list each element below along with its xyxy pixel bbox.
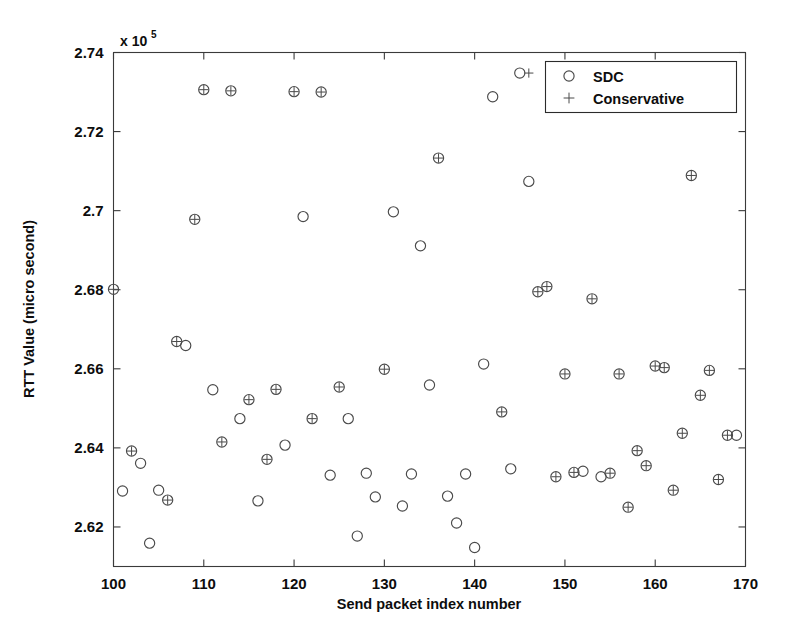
y-axis-exponent-base: x 10 (120, 33, 147, 49)
data-point-sdc (515, 68, 525, 78)
data-point-sdc (298, 211, 308, 221)
y-tick-label: 2.7 (83, 202, 104, 219)
data-point-sdc (208, 385, 218, 395)
data-point-sdc (524, 176, 534, 186)
data-point-sdc (442, 491, 452, 501)
data-point-sdc (406, 469, 416, 479)
data-point-sdc (470, 542, 480, 552)
x-tick-label: 160 (643, 575, 668, 592)
y-tick-label: 2.72 (74, 123, 103, 140)
series-sdc-points (108, 68, 741, 553)
legend-label-sdc: SDC (593, 69, 624, 85)
x-tick-label: 130 (372, 575, 397, 592)
x-axis-ticks: 100110120130140150160170 (101, 53, 758, 592)
data-point-sdc (415, 241, 425, 251)
y-tick-label: 2.64 (74, 439, 104, 456)
data-point-sdc (479, 359, 489, 369)
data-point-sdc (370, 492, 380, 502)
data-point-sdc (135, 458, 145, 468)
data-point-sdc (253, 496, 263, 506)
data-point-conservative (524, 68, 533, 77)
data-point-sdc (461, 469, 471, 479)
data-point-sdc (235, 414, 245, 424)
x-tick-label: 110 (192, 575, 216, 592)
data-point-sdc (488, 92, 498, 102)
data-point-sdc (181, 340, 191, 350)
x-tick-label: 170 (733, 575, 758, 592)
plot-frame (114, 53, 746, 567)
data-point-sdc (280, 440, 290, 450)
legend[interactable]: SDC Conservative (546, 62, 737, 113)
data-point-sdc (397, 501, 407, 511)
data-point-sdc (352, 531, 362, 541)
data-point-sdc (145, 538, 155, 548)
data-point-sdc (361, 468, 371, 478)
legend-label-conservative: Conservative (593, 91, 684, 107)
x-axis-title: Send packet index number (337, 596, 522, 612)
x-tick-label: 150 (552, 575, 577, 592)
y-axis-title: RTT Value (micro second) (21, 220, 37, 398)
y-tick-label: 2.74 (74, 44, 104, 61)
scatter-plot-svg: 100110120130140150160170 2.622.642.662.6… (0, 0, 794, 644)
data-point-sdc (343, 414, 353, 424)
data-point-sdc (154, 485, 164, 495)
y-axis-exponent: x 10 5 (120, 29, 157, 49)
data-point-sdc (325, 470, 335, 480)
x-tick-label: 100 (101, 575, 126, 592)
data-point-sdc (424, 380, 434, 390)
y-tick-label: 2.68 (74, 281, 103, 298)
data-point-sdc (451, 518, 461, 528)
y-tick-label: 2.62 (74, 518, 103, 535)
x-tick-label: 120 (282, 575, 307, 592)
x-tick-label: 140 (462, 575, 487, 592)
data-point-sdc (506, 464, 516, 474)
data-point-sdc (388, 207, 398, 217)
y-tick-label: 2.66 (74, 360, 103, 377)
y-axis-exponent-power: 5 (151, 29, 157, 40)
data-point-sdc (117, 486, 127, 496)
figure-container: 100110120130140150160170 2.622.642.662.6… (0, 0, 794, 644)
